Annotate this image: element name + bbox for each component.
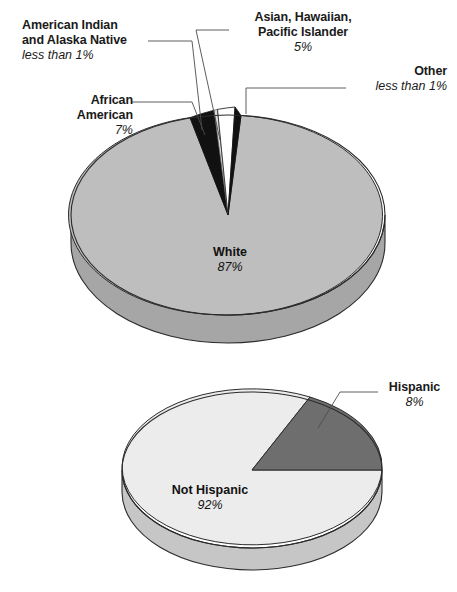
ethnicity-pie-slices	[122, 389, 382, 548]
callout-asian-value: 5%	[229, 40, 377, 55]
callout-asian-line1: Asian, Hawaiian,	[229, 10, 377, 25]
callout-hispanic: Hispanic 8%	[372, 380, 457, 410]
slice-other	[228, 107, 241, 215]
callout-hispanic-line1: Hispanic	[372, 380, 457, 395]
callout-asian-line2: Pacific Islander	[229, 25, 377, 40]
callout-african-american-value: 7%	[0, 123, 133, 138]
slice-asian-hawaiian-pacific-islander	[218, 107, 236, 215]
callout-american-indian: American Indian and Alaska Native less t…	[22, 18, 127, 62]
callout-other: Other less than 1%	[257, 64, 447, 94]
slice-not-hispanic	[122, 389, 382, 545]
race-pie-depth	[71, 215, 385, 343]
ethnicity-pie-rim	[122, 392, 382, 548]
slice-label-white: White 87%	[180, 245, 280, 275]
callout-asian-hawaiian-pacific-islander: Asian, Hawaiian, Pacific Islander 5%	[229, 10, 377, 54]
callout-hispanic-value: 8%	[372, 395, 457, 410]
callout-american-indian-line2: and Alaska Native	[22, 33, 127, 48]
slice-white	[68, 116, 382, 316]
slice-label-not-hispanic-name: Not Hispanic	[152, 483, 268, 498]
callout-american-indian-value: less than 1%	[22, 48, 127, 63]
slice-label-not-hispanic: Not Hispanic 92%	[152, 483, 268, 513]
slice-label-not-hispanic-value: 92%	[152, 498, 268, 513]
callout-african-american-line2: American	[0, 108, 133, 123]
callout-african-american: African American 7%	[0, 93, 133, 137]
callout-other-line1: Other	[257, 64, 447, 79]
race-pie-slices	[68, 107, 385, 315]
slice-label-white-value: 87%	[180, 260, 280, 275]
pie-charts-figure: American Indian and Alaska Native less t…	[0, 0, 457, 592]
callout-american-indian-line1: American Indian	[22, 18, 127, 33]
slice-american-indian	[214, 109, 228, 215]
callout-african-american-line1: African	[0, 93, 133, 108]
callout-other-value: less than 1%	[257, 79, 447, 94]
slice-hispanic	[252, 397, 382, 470]
race-pie-rim	[71, 115, 385, 315]
slice-african-american	[190, 110, 228, 215]
slice-label-white-name: White	[180, 245, 280, 260]
ethnicity-pie-leader-lines	[318, 392, 378, 428]
